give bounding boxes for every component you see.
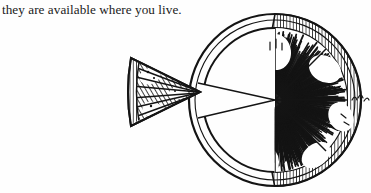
main-slice: [189, 14, 369, 186]
wedge-notch: [198, 83, 275, 118]
page-canvas: they are available where you live.: [0, 0, 371, 193]
citrus-illustration: [120, 6, 371, 193]
citrus-illustration-svg: [120, 6, 371, 193]
